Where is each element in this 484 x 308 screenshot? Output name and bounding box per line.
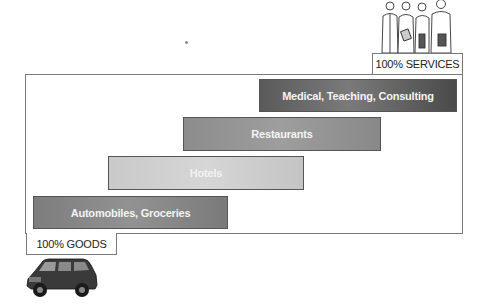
goods-end-label: 100% GOODS	[26, 233, 117, 255]
bar-automobiles-groceries: Automobiles, Groceries	[33, 196, 228, 229]
services-end-label: 100% SERVICES	[372, 53, 463, 75]
stray-mark	[184, 40, 188, 44]
bar-hotels: Hotels	[108, 156, 304, 190]
professionals-group-icon	[378, 0, 460, 53]
suv-car-icon	[25, 257, 101, 299]
bar-restaurants: Restaurants	[183, 117, 381, 151]
bar-medical-teaching-consulting: Medical, Teaching, Consulting	[259, 79, 457, 112]
